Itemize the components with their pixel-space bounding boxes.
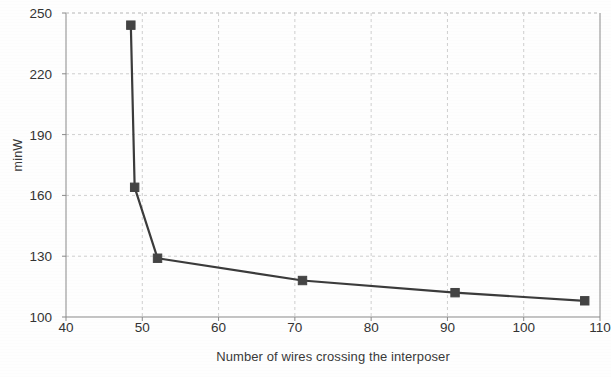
data-point-marker xyxy=(127,21,135,29)
chart-container: minW 100130160190220250 4050607080901001… xyxy=(0,0,611,377)
data-point-marker xyxy=(451,288,459,296)
data-point-marker xyxy=(298,276,306,284)
x-axis-title: Number of wires crossing the interposer xyxy=(66,349,600,364)
axes xyxy=(62,13,600,321)
gridlines xyxy=(66,13,600,317)
series-line xyxy=(131,25,585,301)
plot-area xyxy=(0,0,611,377)
data-point-marker xyxy=(581,297,589,305)
data-point-marker xyxy=(153,254,161,262)
data-series-layer xyxy=(127,21,589,305)
data-point-marker xyxy=(130,183,138,191)
